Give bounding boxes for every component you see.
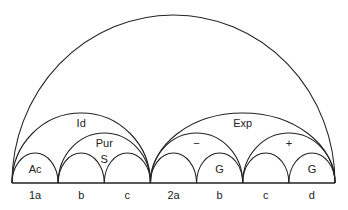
segment-label: b bbox=[217, 189, 223, 201]
arc-label: Pur bbox=[96, 137, 113, 149]
arc-label: + bbox=[286, 137, 292, 149]
arc-label: − bbox=[193, 137, 199, 149]
arc-label: S bbox=[101, 153, 108, 165]
segment-label: d bbox=[309, 189, 315, 201]
segment-label: b bbox=[78, 189, 84, 201]
arc-label: Exp bbox=[233, 117, 252, 129]
arc-label: G bbox=[308, 163, 317, 175]
arc-unlabeled-0 bbox=[12, 15, 335, 183]
segment-label: 2a bbox=[167, 189, 180, 201]
arc-label: Ac bbox=[29, 163, 42, 175]
arc-diagram: IdExpAcPurS−G+G1abc2abcd bbox=[0, 0, 348, 210]
arc-label: Id bbox=[77, 117, 86, 129]
segment-label: c bbox=[263, 189, 269, 201]
segment-label: 1a bbox=[29, 189, 42, 201]
arc-label: G bbox=[215, 163, 224, 175]
segment-label: c bbox=[125, 189, 131, 201]
